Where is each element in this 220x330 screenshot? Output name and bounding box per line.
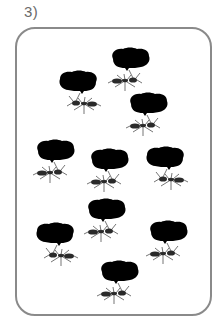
leaf-icon [91,149,128,173]
ant-carrying-leaf-5 [86,148,136,194]
ant-carrying-leaf-2 [52,70,102,116]
leaf-icon [146,147,183,171]
ant-carrying-leaf-7 [83,198,133,244]
ant-carrying-leaf-9 [145,220,195,266]
leaf-icon [112,48,149,72]
ant-icon [87,171,121,192]
ant-icon [84,221,118,242]
ant-carrying-leaf-3 [125,92,175,138]
ant-carrying-leaf-4 [32,139,82,185]
ant-icon [33,162,67,183]
ant-icon [108,70,142,91]
ant-icon [146,243,180,264]
leaf-icon [36,223,73,247]
leaf-icon [37,140,74,164]
leaf-icon [59,71,96,95]
leaf-icon [130,93,167,117]
problem-number: 3) [24,3,38,20]
ant-icon [154,169,188,190]
ant-carrying-leaf-6 [139,146,189,192]
ant-carrying-leaf-8 [29,222,79,268]
ant-icon [67,93,101,114]
leaf-icon [101,261,138,285]
leaf-icon [150,221,187,245]
ant-icon [44,245,78,266]
ant-carrying-leaf-10 [96,260,146,306]
ant-carrying-leaf-1 [107,47,157,93]
ant-icon [126,115,160,136]
leaf-icon [88,199,125,223]
ant-icon [97,283,131,304]
